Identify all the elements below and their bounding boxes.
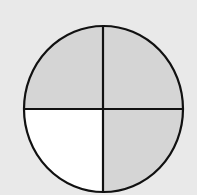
fraction-circle (0, 0, 197, 195)
fraction-diagram (0, 0, 197, 195)
quadrant-bottom-right (103, 109, 183, 192)
quadrant-top-right (103, 26, 183, 109)
